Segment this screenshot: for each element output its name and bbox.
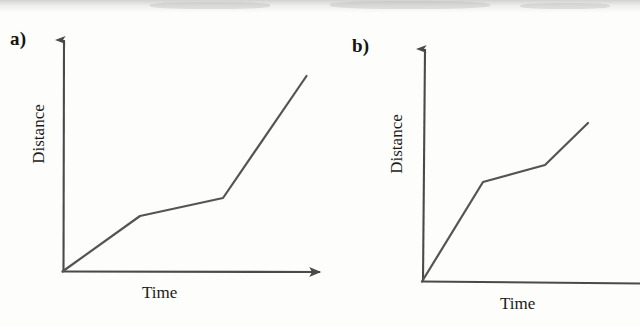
data-line-a	[63, 76, 307, 272]
y-axis-title-b: Distance	[387, 107, 407, 181]
x-axis-a	[62, 272, 320, 273]
y-axis-a	[64, 40, 65, 272]
axes-panel-b	[422, 49, 640, 284]
axes-panel-a	[62, 40, 320, 272]
panel-label-b: b)	[352, 35, 369, 57]
figure-page: a) Distance Time b) Distance Ti	[0, 0, 640, 327]
figure-svg	[0, 0, 640, 327]
y-axis-b	[423, 49, 425, 282]
x-axis-title-b: Time	[500, 294, 535, 314]
data-line-b	[422, 123, 588, 282]
x-axis-b	[422, 282, 640, 284]
